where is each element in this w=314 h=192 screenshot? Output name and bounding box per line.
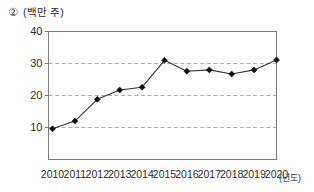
y-axis-tick-labels: 10203040: [30, 25, 42, 133]
data-point-markers: [50, 57, 280, 132]
x-axis-tick-label: 2017: [198, 168, 222, 180]
data-point: [251, 67, 257, 73]
x-axis-tick-label: 2016: [175, 168, 199, 180]
y-axis-tick-label: 30: [30, 57, 42, 69]
x-axis-tick-label: 2010: [41, 168, 65, 180]
data-point: [229, 71, 235, 77]
gridlines: [49, 64, 277, 128]
line-chart: 10203040 2010201120122013201420152016201…: [0, 0, 314, 192]
x-axis-tick-label: 2014: [130, 168, 154, 180]
y-axis-tick-label: 40: [30, 25, 42, 37]
data-point: [206, 67, 212, 73]
x-axis-tick-label: 2013: [108, 168, 132, 180]
x-axis-title: (년도): [279, 173, 301, 183]
data-point: [117, 87, 123, 93]
x-axis-tick-label: 2012: [86, 168, 110, 180]
x-axis-tick-label: 2015: [153, 168, 177, 180]
data-point: [274, 57, 280, 63]
x-axis-tick-label: 2019: [242, 168, 266, 180]
x-axis-tick-label: 2018: [220, 168, 244, 180]
data-line: [53, 60, 277, 129]
y-axis-tick-label: 10: [30, 121, 42, 133]
x-axis-tick-labels: 2010201120122013201420152016201720182019…: [41, 168, 289, 180]
chart-svg: 10203040 2010201120122013201420152016201…: [0, 0, 314, 192]
chart-page: ② (백만 주) 10203040 2010201120122013201420…: [0, 0, 314, 192]
y-axis-ticks: [45, 32, 49, 128]
data-point: [50, 126, 56, 132]
y-axis-tick-label: 20: [30, 89, 42, 101]
x-axis-tick-label: 2011: [64, 168, 87, 180]
data-point: [184, 68, 190, 74]
